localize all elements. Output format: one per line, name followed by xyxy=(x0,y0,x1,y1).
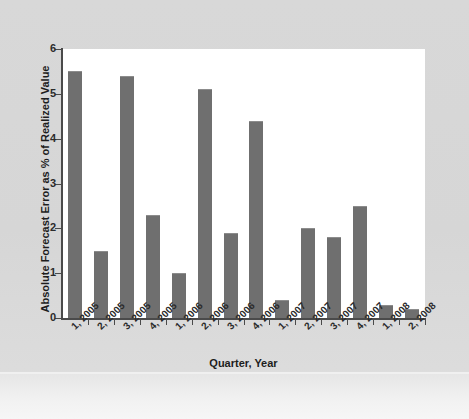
x-axis-tick xyxy=(373,320,374,325)
x-axis-tick xyxy=(425,320,426,325)
x-axis-tick xyxy=(321,320,322,325)
y-axis-title: Absolute Forecast Error as % of Realized… xyxy=(39,64,51,314)
bars-layer xyxy=(62,49,425,318)
x-axis-tick xyxy=(114,320,115,325)
x-axis-tick xyxy=(295,320,296,325)
bar xyxy=(198,89,212,318)
bar-chart-figure: 6543210 1, 20052, 20053, 20054, 20051, 2… xyxy=(0,0,469,372)
y-axis-tick xyxy=(55,49,62,50)
bar xyxy=(68,71,82,318)
y-axis-tick xyxy=(55,94,62,95)
x-axis-tick xyxy=(88,320,89,325)
x-axis-tick xyxy=(140,320,141,325)
x-axis-tick xyxy=(269,320,270,325)
y-axis-tick xyxy=(55,184,62,185)
x-axis-title: Quarter, Year xyxy=(62,357,425,369)
x-axis-tick xyxy=(166,320,167,325)
y-axis-tick-label: 6 xyxy=(36,43,56,54)
bar xyxy=(249,121,263,318)
x-axis-tick xyxy=(347,320,348,325)
bar xyxy=(120,76,134,318)
x-axis-tick xyxy=(399,320,400,325)
y-axis-tick xyxy=(55,139,62,140)
y-axis-tick xyxy=(55,273,62,274)
y-axis-tick xyxy=(55,318,62,319)
bar xyxy=(353,206,367,318)
y-axis-tick xyxy=(55,228,62,229)
chart-screenshot: 6543210 1, 20052, 20053, 20054, 20051, 2… xyxy=(0,0,469,419)
